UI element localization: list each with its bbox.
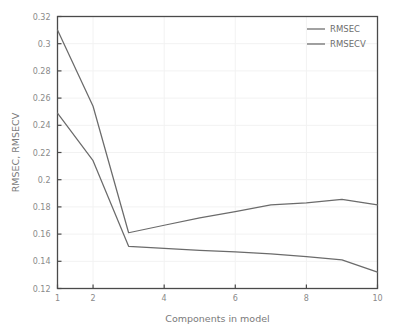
legend-label-rmsecv: RMSECV: [330, 39, 366, 49]
x-axis-tick-label: 8: [304, 294, 309, 303]
y-axis-tick-label: 0.16: [33, 230, 51, 239]
y-axis-tick-label: 0.32: [33, 13, 51, 22]
y-axis-tick-label: 0.14: [33, 257, 51, 266]
chart-background: [0, 0, 395, 335]
y-axis-tick-label: 0.26: [33, 94, 51, 103]
x-axis-tick-label: 6: [233, 294, 238, 303]
y-axis-tick-label: 0.3: [38, 40, 51, 49]
x-axis-tick-label: 2: [91, 294, 96, 303]
y-axis-tick-label: 0.24: [33, 121, 51, 130]
x-axis-title: Components in model: [165, 313, 269, 324]
x-axis-tick-label: 10: [372, 294, 382, 303]
y-axis-tick-label: 0.2: [38, 176, 51, 185]
y-axis-tick-label: 0.22: [33, 149, 51, 158]
y-axis-tick-label: 0.12: [33, 285, 51, 294]
line-chart: 0.120.140.160.180.20.220.240.260.280.30.…: [0, 0, 395, 335]
legend-label-rmsec: RMSEC: [330, 24, 360, 34]
chart-container: 0.120.140.160.180.20.220.240.260.280.30.…: [0, 0, 395, 335]
x-axis-tick-label: 1: [55, 294, 60, 303]
y-axis-tick-label: 0.28: [33, 67, 51, 76]
y-axis-title: RMSEC, RMSECV: [10, 112, 21, 192]
x-axis-tick-label: 4: [162, 294, 167, 303]
y-axis-tick-label: 0.18: [33, 203, 51, 212]
